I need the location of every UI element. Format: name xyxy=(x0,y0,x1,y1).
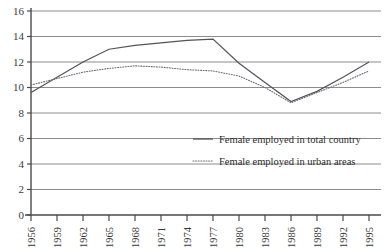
chart-canvas: 0246810121416195619591962196519681971197… xyxy=(0,0,384,252)
x-axis-label-1983: 1983 xyxy=(260,227,271,248)
y-axis-label-10: 10 xyxy=(13,81,25,93)
line-chart: 0246810121416195619591962196519681971197… xyxy=(0,0,384,252)
x-axis-label-1962: 1962 xyxy=(78,227,89,248)
x-axis-label-1968: 1968 xyxy=(130,227,141,248)
legend-label-1: Female employed in total country xyxy=(219,134,361,145)
x-axis-label-1989: 1989 xyxy=(312,227,323,248)
x-axis-label-1995: 1995 xyxy=(364,227,375,248)
series-line-2 xyxy=(31,66,369,103)
y-axis-label-0: 0 xyxy=(19,209,25,221)
y-axis-label-2: 2 xyxy=(19,183,25,195)
x-axis-label-1974: 1974 xyxy=(182,226,193,248)
y-axis-label-4: 4 xyxy=(19,158,25,170)
x-axis-label-1959: 1959 xyxy=(52,227,63,248)
y-axis-label-16: 16 xyxy=(13,5,25,17)
x-axis-label-1956: 1956 xyxy=(26,227,37,248)
x-axis-label-1965: 1965 xyxy=(104,227,115,248)
y-axis-label-8: 8 xyxy=(19,107,25,119)
y-axis-label-6: 6 xyxy=(19,132,25,144)
x-axis-label-1986: 1986 xyxy=(286,227,297,248)
x-axis-label-1980: 1980 xyxy=(234,227,245,248)
y-axis-label-14: 14 xyxy=(13,30,25,42)
legend-label-2: Female employed in urban areas xyxy=(219,156,355,167)
x-axis-label-1977: 1977 xyxy=(208,227,219,248)
x-axis-label-1992: 1992 xyxy=(338,227,349,248)
x-axis-label-1971: 1971 xyxy=(156,227,167,248)
y-axis-label-12: 12 xyxy=(13,56,24,68)
